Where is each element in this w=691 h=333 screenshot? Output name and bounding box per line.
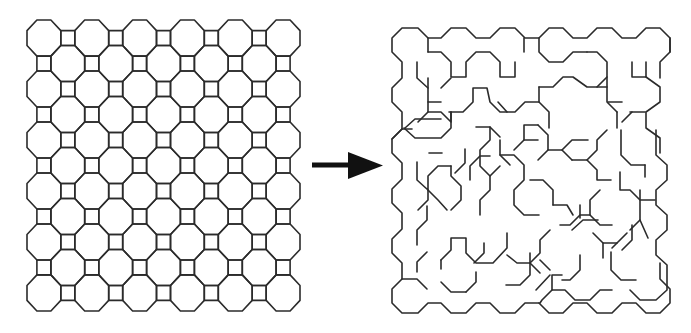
square-cell [204, 235, 218, 250]
octagon-cell [75, 275, 109, 311]
maze-wall [449, 88, 549, 128]
maze-wall [630, 130, 667, 300]
arrow-shaft [312, 163, 350, 168]
square-cell [180, 209, 194, 224]
square-cell [180, 260, 194, 275]
square-cell [228, 56, 242, 71]
square-cell [109, 184, 123, 199]
square-cell [37, 107, 51, 122]
square-cell [133, 260, 147, 275]
square-cell [180, 56, 194, 71]
square-cell [61, 133, 75, 148]
square-cell [276, 260, 290, 275]
square-cell [37, 260, 51, 275]
maze-wall [536, 275, 550, 290]
square-cell [180, 107, 194, 122]
square-cell [157, 82, 171, 97]
octagon-cell [266, 275, 300, 311]
square-cell [276, 56, 290, 71]
maze-wall [441, 78, 451, 88]
square-cell [252, 82, 266, 97]
square-cell [228, 209, 242, 224]
maze-wall [611, 252, 636, 280]
square-cell [276, 158, 290, 173]
maze-wall [530, 263, 540, 273]
square-cell [133, 209, 147, 224]
octagon-cell [171, 275, 205, 311]
square-cell [228, 107, 242, 122]
square-cell [157, 286, 171, 301]
maze-wall [603, 233, 627, 243]
tiling-to-maze-figure [0, 0, 691, 333]
square-cell [276, 107, 290, 122]
square-cell [228, 260, 242, 275]
maze-wall [538, 150, 548, 160]
maze-wall [417, 62, 441, 102]
maze-wall [539, 38, 587, 62]
square-cell [157, 31, 171, 46]
maze-wall [621, 130, 645, 165]
square-cell [204, 31, 218, 46]
square-cell [37, 158, 51, 173]
octagon-cell [123, 275, 157, 311]
square-cell [37, 56, 51, 71]
maze-wall [640, 220, 648, 238]
maze-wall [417, 162, 451, 190]
maze-wall [587, 160, 611, 180]
maze-wall [441, 282, 466, 292]
maze-wall [646, 77, 660, 153]
maze-wall [405, 119, 441, 128]
square-cell [133, 56, 147, 71]
maze-wall [417, 206, 427, 245]
square-cell [252, 184, 266, 199]
maze-wall [476, 127, 500, 137]
square-cell [109, 82, 123, 97]
maze-wall [622, 112, 632, 122]
square-cell [85, 158, 99, 173]
maze-wall [553, 205, 573, 215]
maze-wall [607, 77, 617, 112]
square-cell [109, 286, 123, 301]
maze [392, 28, 670, 313]
maze-wall [474, 243, 484, 263]
maze-wall [500, 155, 539, 215]
square-cell [85, 209, 99, 224]
maze-wall [540, 290, 552, 303]
octagon-square-tiling [27, 20, 300, 311]
square-cell [157, 235, 171, 250]
octagon-cell [27, 275, 61, 311]
maze-wall [540, 260, 550, 270]
square-cell [276, 209, 290, 224]
octagon-cell [218, 275, 252, 311]
maze-wall [507, 230, 550, 263]
square-cell [204, 82, 218, 97]
square-cell [180, 158, 194, 173]
square-cell [37, 209, 51, 224]
maze-wall [428, 28, 670, 78]
maze-wall [490, 166, 500, 176]
square-cell [133, 107, 147, 122]
square-cell [228, 158, 242, 173]
maze-wall [466, 272, 476, 292]
maze-wall [514, 140, 538, 150]
maze-wall [620, 172, 655, 200]
square-cell [157, 133, 171, 148]
square-cell [133, 158, 147, 173]
maze-wall [524, 125, 538, 140]
square-cell [61, 286, 75, 301]
maze-wall [562, 255, 580, 280]
square-cell [204, 133, 218, 148]
maze-wall [562, 140, 588, 150]
square-cell [204, 184, 218, 199]
maze-wall [572, 130, 607, 160]
square-cell [61, 184, 75, 199]
square-cell [61, 235, 75, 250]
maze-wall [428, 52, 515, 77]
maze-wall [552, 275, 612, 300]
maze-wall [392, 129, 402, 139]
maze-wall [441, 233, 507, 263]
maze-wall [402, 279, 427, 289]
square-cell [252, 133, 266, 148]
maze-wall [417, 252, 427, 272]
square-cell [109, 235, 123, 250]
